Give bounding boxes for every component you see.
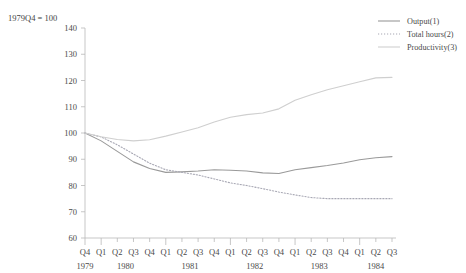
y-axis-tick-label: 110 [65, 102, 77, 112]
y-axis-tick-label: 140 [64, 23, 77, 33]
x-axis-quarter-label: Q1 [96, 247, 106, 257]
x-axis-quarter-label: Q2 [112, 247, 122, 257]
x-axis-quarter-label: Q4 [209, 247, 220, 257]
y-axis-unit-label: 1979Q4 = 100 [8, 13, 57, 23]
chart-container: 1979Q4 = 10014013012011010090807060Q4Q1Q… [0, 0, 466, 273]
series-line-1 [85, 133, 392, 173]
x-axis-quarter-label: Q1 [354, 247, 364, 257]
y-axis-tick-label: 60 [69, 233, 78, 243]
x-axis-year-label: 1983 [311, 261, 328, 271]
x-axis-quarter-label: Q1 [161, 247, 171, 257]
x-axis-quarter-label: Q3 [387, 247, 397, 257]
x-axis-quarter-label: Q2 [177, 247, 187, 257]
series-line-3 [85, 77, 392, 141]
x-axis-quarter-label: Q4 [338, 247, 349, 257]
x-axis-quarter-label: Q2 [241, 247, 251, 257]
x-axis-year-label: 1984 [367, 261, 385, 271]
y-axis-tick-label: 120 [64, 76, 77, 86]
x-axis-quarter-label: Q3 [128, 247, 138, 257]
y-axis-tick-label: 90 [69, 154, 78, 164]
x-axis-quarter-label: Q4 [144, 247, 155, 257]
x-axis-quarter-label: Q1 [290, 247, 300, 257]
line-chart: 1979Q4 = 10014013012011010090807060Q4Q1Q… [0, 0, 466, 273]
x-axis-quarter-label: Q1 [225, 247, 235, 257]
y-axis-tick-label: 80 [69, 181, 78, 191]
x-axis-quarter-label: Q3 [258, 247, 268, 257]
y-axis-tick-label: 100 [64, 128, 77, 138]
x-axis-quarter-label: Q4 [80, 247, 91, 257]
x-axis-year-label: 1982 [246, 261, 263, 271]
x-axis-quarter-label: Q2 [371, 247, 381, 257]
legend-label-3: Productivity(3) [407, 43, 457, 52]
y-axis-tick-label: 130 [64, 49, 77, 59]
series-line-2 [85, 133, 392, 199]
legend-label-1: Output(1) [407, 17, 440, 26]
x-axis-quarter-label: Q2 [306, 247, 316, 257]
x-axis-quarter-label: Q4 [274, 247, 285, 257]
x-axis-year-label: 1980 [117, 261, 134, 271]
x-axis-quarter-label: Q3 [322, 247, 332, 257]
x-axis-quarter-label: Q3 [193, 247, 203, 257]
x-axis-year-label: 1981 [182, 261, 199, 271]
x-axis-year-label: 1979 [77, 261, 94, 271]
y-axis-tick-label: 70 [69, 207, 78, 217]
legend-label-2: Total hours(2) [407, 30, 454, 39]
